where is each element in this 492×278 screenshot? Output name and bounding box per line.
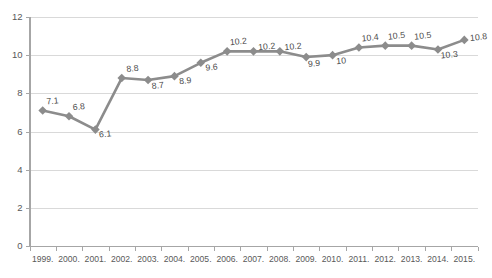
y-tick-label: 8 <box>17 87 22 98</box>
y-tick-labels: 024681012 <box>12 11 23 251</box>
data-point-label: 10.2 <box>284 41 302 53</box>
chart-canvas: 024681012 1999.2000.2001.2002.2003.2004.… <box>0 0 492 278</box>
data-point-label: 8.8 <box>126 63 139 74</box>
x-tick-label: 2014. <box>427 254 449 264</box>
y-tick-label: 12 <box>12 11 23 22</box>
x-tick-label: 2010. <box>322 254 344 264</box>
y-tick-label: 2 <box>17 202 22 213</box>
data-point-marker[interactable] <box>460 36 469 45</box>
x-tick-label: 2011. <box>348 254 369 264</box>
x-tick-label: 2006. <box>216 254 238 264</box>
data-point-marker[interactable] <box>196 59 205 68</box>
x-tick-label: 2013. <box>401 254 423 264</box>
x-tick-label: 2009. <box>295 254 317 264</box>
data-point-marker[interactable] <box>381 41 390 50</box>
data-point-label: 8.7 <box>151 80 164 91</box>
data-point-label: 9.9 <box>307 58 320 69</box>
x-tick-label: 2015. <box>454 254 476 264</box>
y-tick-label: 0 <box>17 240 22 251</box>
data-point-marker[interactable] <box>355 43 364 52</box>
y-tick-label: 10 <box>12 49 23 60</box>
data-point-label: 9.6 <box>205 62 218 73</box>
x-tick-label: 2001. <box>85 254 107 264</box>
data-point-label: 10 <box>336 55 347 66</box>
data-point-label: 10.5 <box>387 30 405 42</box>
data-point-marker[interactable] <box>407 41 416 50</box>
data-point-marker[interactable] <box>276 47 285 56</box>
data-point-label: 7.1 <box>46 95 59 106</box>
x-tick-label: 2007. <box>243 254 265 264</box>
data-point-marker[interactable] <box>170 72 179 81</box>
data-point-marker[interactable] <box>117 74 126 83</box>
line-chart: 024681012 1999.2000.2001.2002.2003.2004.… <box>0 0 492 278</box>
data-point-marker[interactable] <box>65 112 74 121</box>
x-tick-label: 2005. <box>190 254 212 264</box>
data-point-label: 10.5 <box>414 30 432 42</box>
data-point-label: 6.1 <box>99 128 112 139</box>
data-point-label: 10.2 <box>258 41 276 53</box>
data-point-marker[interactable] <box>249 47 258 56</box>
x-tick-label: 2002. <box>111 254 133 264</box>
y-tick-label: 6 <box>17 126 22 137</box>
data-point-label: 8.9 <box>179 75 192 86</box>
x-axis <box>30 247 479 252</box>
x-tick-label: 2003. <box>137 254 159 264</box>
y-tick-label: 4 <box>17 164 22 175</box>
x-tick-label: 2004. <box>164 254 186 264</box>
data-point-marker[interactable] <box>38 106 47 115</box>
y-axis <box>26 17 31 247</box>
data-point-marker[interactable] <box>223 47 232 56</box>
x-tick-label: 2008. <box>269 254 291 264</box>
data-point-label: 10.2 <box>229 36 247 48</box>
x-tick-label: 2012. <box>375 254 397 264</box>
x-tick-labels: 1999.2000.2001.2002.2003.2004.2005.2006.… <box>32 254 475 264</box>
data-point-label: 6.8 <box>72 101 85 112</box>
data-point-label: 10.3 <box>440 49 458 61</box>
x-tick-label: 1999. <box>32 254 54 264</box>
series-markers <box>38 36 468 134</box>
data-point-label: 10.4 <box>361 32 379 44</box>
data-point-label: 10.8 <box>469 31 487 43</box>
x-tick-label: 2000. <box>58 254 80 264</box>
